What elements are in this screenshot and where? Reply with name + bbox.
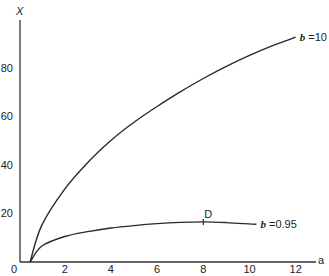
origin-label: 0 — [11, 263, 17, 275]
x-tick-label: 12 — [290, 263, 302, 275]
y-tick-labels: 20406080 — [1, 62, 13, 220]
y-tick-label: 40 — [1, 159, 13, 171]
x-axis-label: a — [318, 254, 325, 266]
x-tick-label: 2 — [62, 263, 68, 275]
point-d-label: D — [204, 208, 212, 220]
chart: X a 0 24681012 20406080 b =10b =0.95 D — [0, 0, 329, 276]
curve-b-10 — [30, 37, 296, 262]
y-tick-label: 20 — [1, 207, 13, 219]
x-tick-label: 8 — [200, 263, 206, 275]
x-tick-label: 10 — [243, 263, 255, 275]
series-label-b-10: b =10 — [300, 31, 327, 43]
curve-b-0-95 — [30, 222, 256, 262]
x-tick-label: 6 — [154, 263, 160, 275]
y-axis-label: X — [15, 5, 24, 17]
y-tick-label: 80 — [1, 62, 13, 74]
curves: b =10b =0.95 — [30, 31, 327, 262]
x-tick-labels: 24681012 — [62, 263, 302, 275]
series-label-b-0-95: b =0.95 — [260, 218, 296, 230]
x-tick-label: 4 — [108, 263, 114, 275]
y-tick-label: 60 — [1, 110, 13, 122]
